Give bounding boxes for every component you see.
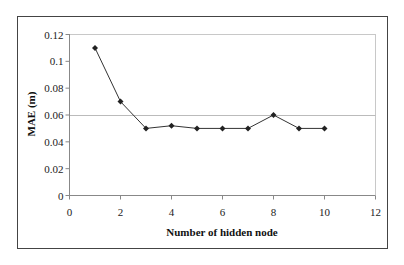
x-tick-label: 6	[220, 206, 226, 218]
x-tick-label: 4	[169, 206, 175, 218]
y-tick-label: 0.06	[44, 109, 64, 121]
x-tick-label: 12	[370, 206, 381, 218]
x-tick-label: 10	[319, 206, 331, 218]
y-tick-label: 0.04	[44, 136, 64, 148]
y-tick-label: 0	[58, 190, 64, 202]
y-tick-label: 0.02	[44, 163, 63, 175]
x-axis-title: Number of hidden node	[166, 226, 277, 238]
y-tick-label: 0.12	[44, 29, 63, 41]
x-tick-label: 2	[118, 206, 124, 218]
x-tick-label: 0	[67, 206, 73, 218]
y-tick-label: 0.1	[50, 55, 64, 67]
y-axis-title: MAE (m)	[25, 91, 38, 136]
chart: 00.020.040.060.080.10.12 024681012 Numbe…	[0, 0, 404, 265]
chart-frame	[18, 17, 388, 249]
y-tick-label: 0.08	[44, 82, 64, 94]
x-tick-label: 8	[271, 206, 277, 218]
